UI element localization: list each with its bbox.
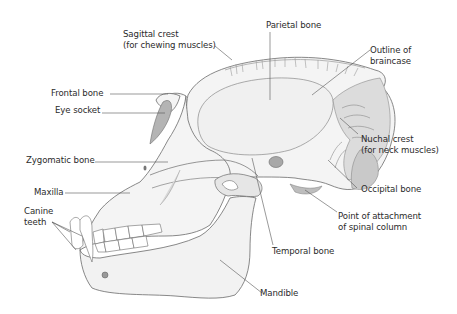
label-line: Point of attachment [338, 211, 421, 222]
label-line: (for chewing muscles) [123, 40, 216, 51]
label-line: Sagittal crest [123, 29, 216, 40]
label-temporal-bone: Temporal bone [272, 246, 334, 257]
eye-socket [150, 100, 172, 144]
label-occipital-bone: Occipital bone [361, 184, 421, 195]
label-zygomatic-bone: Zygomatic bone [26, 155, 95, 166]
label-line: braincase [370, 56, 411, 67]
label-line: teeth [24, 217, 53, 228]
label-maxilla: Maxilla [34, 187, 64, 198]
ear-opening [269, 157, 283, 168]
label-mandible: Mandible [260, 288, 298, 299]
label-outline-braincase: Outline of braincase [370, 45, 411, 67]
label-frontal-bone: Frontal bone [51, 88, 103, 99]
label-line: of spinal column [338, 222, 421, 233]
label-line: Nuchal crest [361, 134, 439, 145]
label-parietal-bone: Parietal bone [266, 20, 321, 31]
label-eye-socket: Eye socket [55, 105, 100, 116]
label-line: Canine [24, 206, 53, 217]
label-line: Outline of [370, 45, 411, 56]
label-line: (for neck muscles) [361, 145, 439, 156]
label-sagittal-crest: Sagittal crest (for chewing muscles) [123, 29, 216, 51]
label-spinal-attachment: Point of attachment of spinal column [338, 211, 421, 233]
label-canine-teeth: Canine teeth [24, 206, 53, 228]
skull-diagram: Sagittal crest (for chewing muscles) Par… [0, 0, 457, 314]
label-nuchal-crest: Nuchal crest (for neck muscles) [361, 134, 439, 156]
